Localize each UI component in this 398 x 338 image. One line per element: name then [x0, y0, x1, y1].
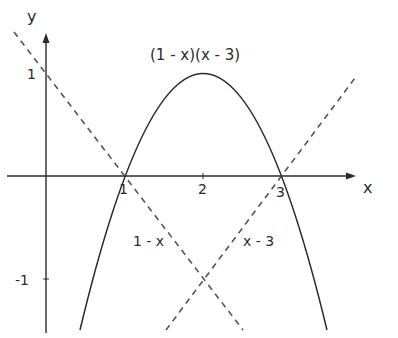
axes: [7, 33, 356, 333]
tick-label-x2: 2: [198, 181, 207, 197]
y-axis-label: y: [27, 7, 36, 26]
line-x-minus-3: [166, 78, 355, 330]
x-axis-arrow-icon: [346, 173, 356, 180]
y-axis-arrow-icon: [43, 33, 50, 43]
x-axis-label: x: [363, 178, 372, 197]
curve-label: (1 - x)(x - 3): [150, 46, 240, 64]
tick-label-y-1: -1: [15, 272, 29, 288]
line1-label: 1 - x: [133, 233, 164, 249]
tick-label-y1: 1: [27, 66, 36, 82]
tick-label-x1: 1: [119, 181, 128, 197]
graph-figure: y x 1 -1 1 2 3 (1 - x)(x - 3) 1 - x x - …: [0, 0, 398, 338]
parabola-curve: [80, 74, 327, 331]
line2-label: x - 3: [243, 233, 274, 249]
line-1-minus-x: [14, 32, 243, 330]
tick-label-x3: 3: [276, 184, 285, 200]
